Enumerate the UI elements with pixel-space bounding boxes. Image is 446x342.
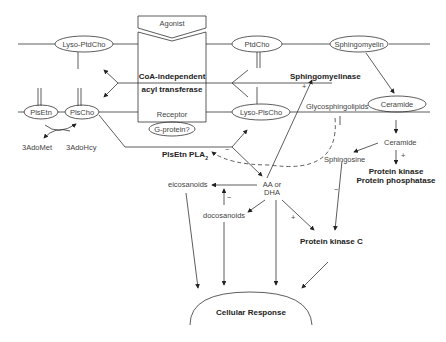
sphingomyelinase-label: Sphingomyelinase: [290, 73, 361, 81]
acyl-transferase-label: acyl transferase: [142, 86, 203, 94]
minus-sign-doco: −: [227, 194, 231, 202]
protein-kinase-label: Protein kinase: [369, 168, 424, 176]
cellular-response-label: Cellular Response: [216, 309, 286, 317]
minus-sign: −: [225, 146, 229, 154]
3adohcy-label: 3AdoHcy: [66, 144, 96, 152]
receptor-label: Receptor: [157, 111, 187, 119]
plscho-node: PlsCho: [70, 108, 94, 117]
ptdcho-node: PtdCho: [244, 40, 269, 49]
plsetn-pla2-subscript: 2: [205, 155, 208, 161]
minus-sign-sphingosine: −: [334, 186, 338, 194]
plsetn-node: PlsEtn: [30, 108, 52, 117]
g-protein-node: G-protein?: [154, 125, 189, 134]
agonist-label: Agonist: [159, 20, 184, 28]
dha-label: DHA: [264, 189, 280, 197]
lyso-plscho-node: Lyso-PlsCho: [240, 108, 282, 117]
plsetn-pla2-text: PlsEtn PLA: [162, 150, 205, 159]
glycosphingolipids-label: Glycosphingolipids: [306, 103, 369, 111]
ceramide-label: Ceramide: [384, 139, 417, 147]
plus-sign-ceramide: +: [401, 152, 405, 160]
sphingosine-label: Sphingosine: [324, 156, 365, 164]
plus-sign-pkc: +: [291, 214, 295, 222]
eicosanoids-label: eicosanoids: [168, 181, 208, 189]
plus-sign: +: [302, 83, 306, 91]
ceramide-oval-node: Ceramide: [381, 100, 414, 109]
docosanoids-label: docosanoids: [203, 212, 245, 220]
plsetn-pla2-label: PlsEtn PLA2: [162, 151, 208, 161]
protein-kinase-c-label: Protein kinase C: [300, 238, 363, 246]
lyso-ptdcho-node: Lyso-PtdCho: [62, 40, 105, 49]
sphingomyelin-node: Sphingomyelin: [334, 40, 383, 49]
3adomet-label: 3AdoMet: [22, 144, 52, 152]
protein-phosphatase-label: Protein phosphatase: [356, 177, 435, 185]
coa-independent-label: CoA-independent: [139, 73, 206, 81]
